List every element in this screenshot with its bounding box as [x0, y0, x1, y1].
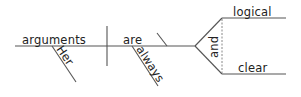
sentence-diagram: arguments Her are always and logical cle… — [0, 0, 301, 97]
complement-slash — [157, 33, 167, 46]
word-complement-logical: logical — [233, 5, 272, 19]
word-subject: arguments — [22, 33, 86, 47]
word-conjunction: and — [207, 36, 221, 58]
diagram-canvas: arguments Her are always and logical cle… — [0, 0, 301, 97]
word-complement-clear: clear — [238, 61, 267, 75]
word-verb: are — [123, 33, 142, 47]
word-verb-modifier: always — [133, 43, 167, 85]
